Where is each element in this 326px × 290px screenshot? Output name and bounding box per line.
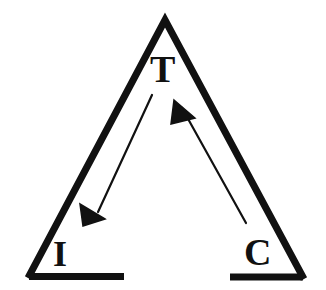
vertex-label-bottom-right: C (244, 233, 271, 271)
vertex-label-bottom-left: I (53, 236, 67, 272)
arrow-t-to-i-shaft (98, 95, 152, 212)
vertex-label-top: T (150, 50, 175, 88)
arrow-c-to-t (171, 100, 246, 223)
arrow-c-to-t-head (171, 100, 195, 124)
diagram-canvas: T I C (0, 0, 326, 290)
triangle-diagram-svg (0, 0, 326, 290)
arrow-c-to-t-shaft (182, 108, 246, 223)
